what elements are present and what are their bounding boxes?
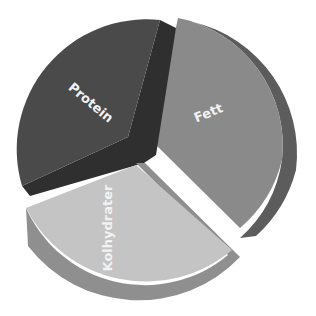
slice-protein[interactable]: Protein (17, 19, 176, 196)
pie-chart: Fett Protein Kolhydrater (0, 0, 316, 316)
label-kolhydrater: Kolhydrater (100, 184, 115, 271)
